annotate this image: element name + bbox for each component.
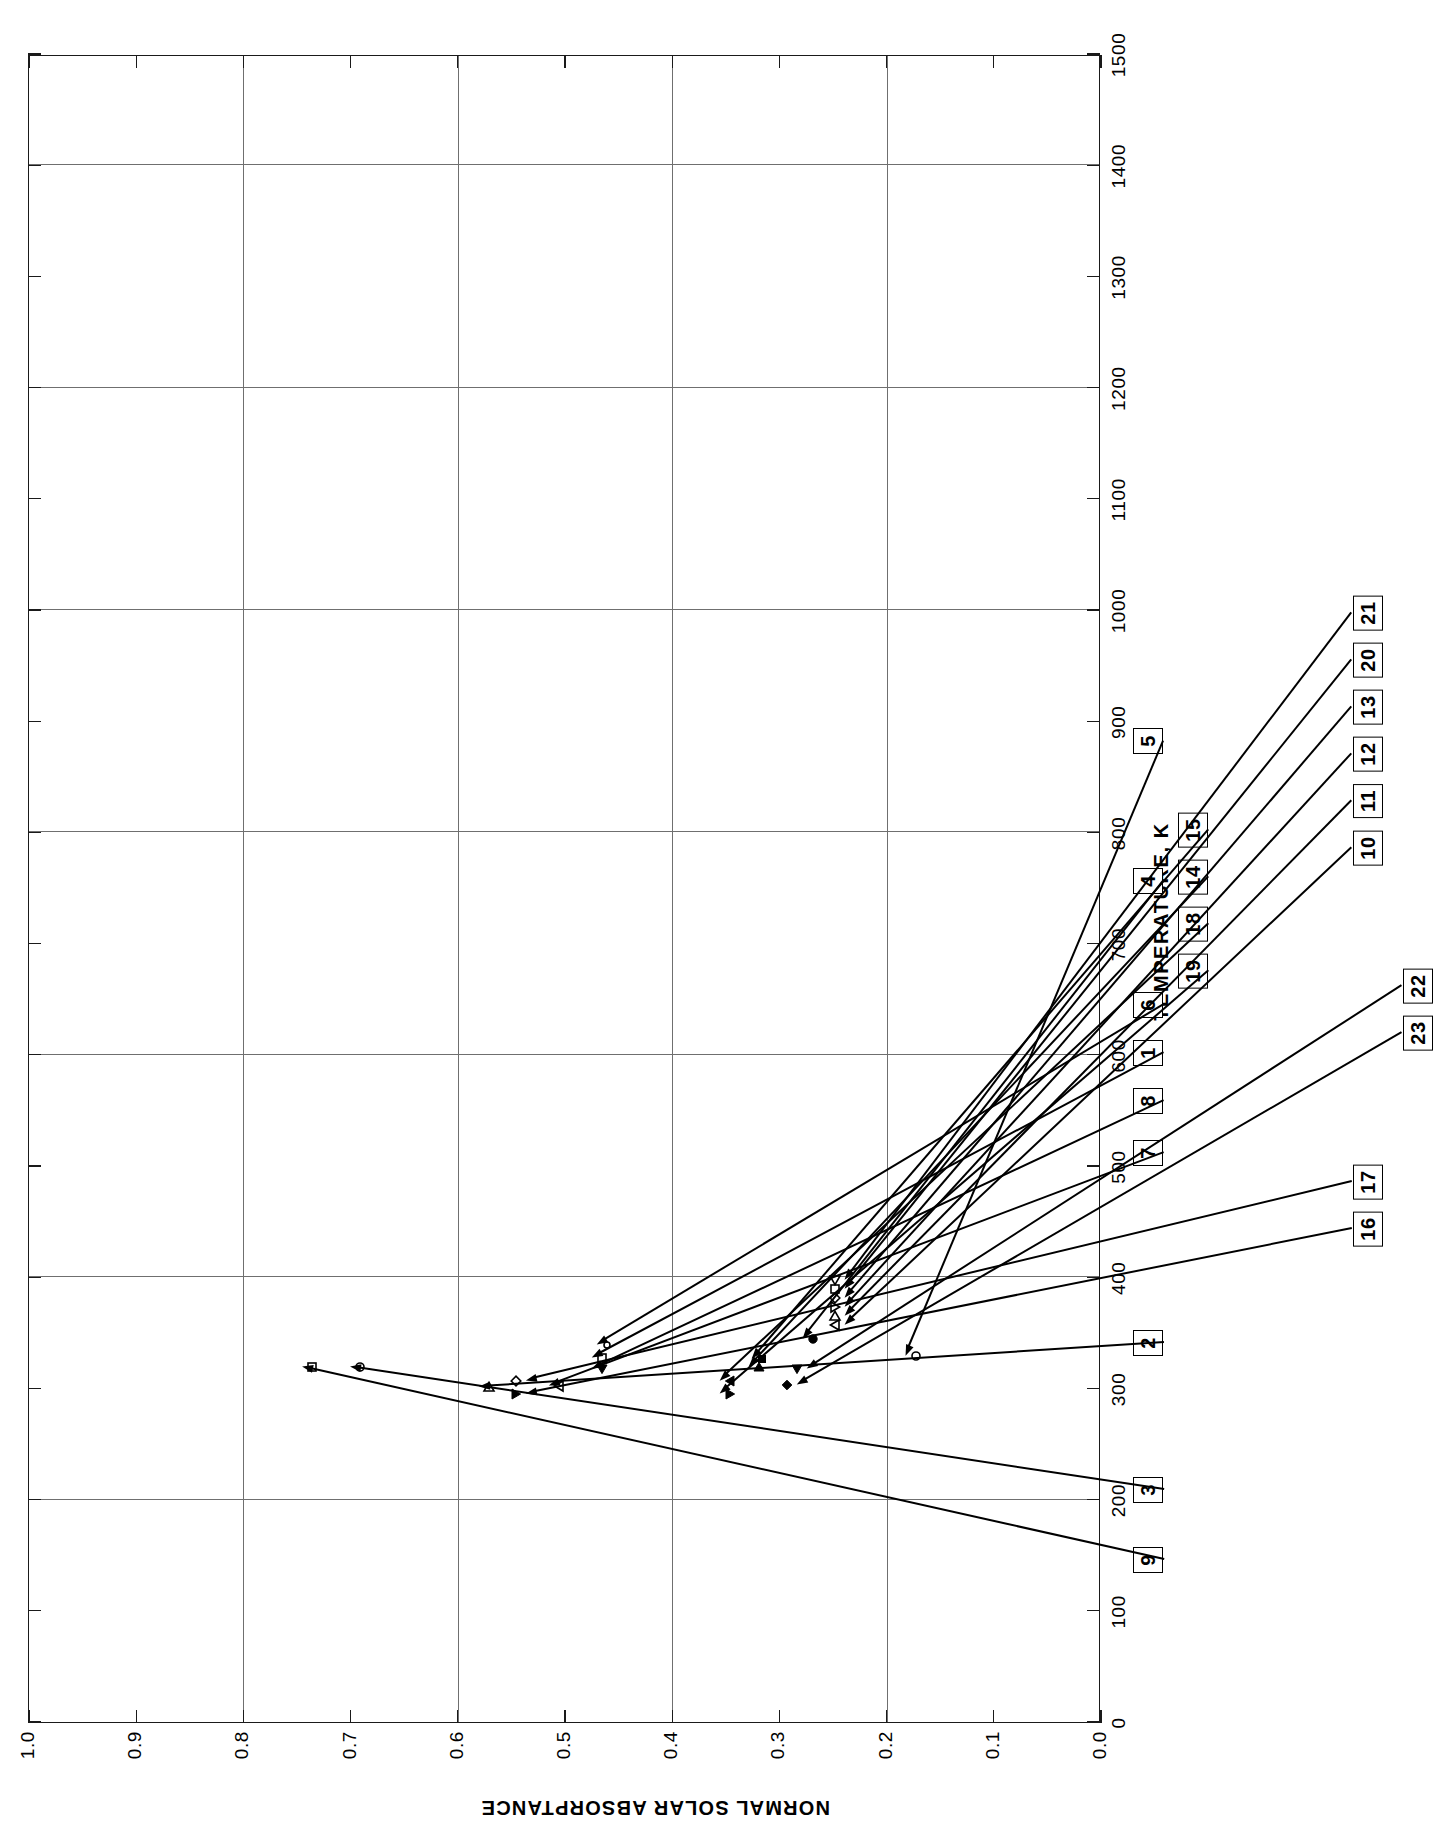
y-axis-tick	[350, 1710, 351, 1723]
x-axis-tick	[28, 1165, 41, 1166]
x-tick-label: 1500	[1108, 33, 1130, 78]
y-tick-label: 0.0	[1089, 1731, 1111, 1785]
gridline-horizontal	[672, 56, 673, 1722]
curve-callout-box: 10	[1353, 830, 1383, 865]
y-axis-tick	[564, 55, 565, 68]
x-tick-label: 1400	[1108, 144, 1130, 189]
x-axis-tick	[1087, 1165, 1100, 1166]
y-axis-tick	[993, 55, 994, 68]
curve-callout-box: 13	[1353, 689, 1383, 724]
y-axis-tick	[886, 55, 887, 68]
x-axis-tick	[28, 1721, 41, 1722]
gridline-vertical	[29, 164, 1099, 165]
y-tick-label: 0.7	[339, 1731, 361, 1785]
curve-callout-box: 23	[1403, 1015, 1433, 1050]
x-axis-tick	[28, 1277, 41, 1278]
callout-arrowhead	[350, 1363, 362, 1373]
x-tick-label: 900	[1108, 705, 1130, 739]
x-axis-tick	[28, 1499, 41, 1500]
gridline-horizontal	[243, 56, 244, 1722]
gridline-vertical	[29, 609, 1099, 610]
y-axis-tick	[886, 1710, 887, 1723]
x-tick-label: 1100	[1108, 478, 1130, 521]
x-tick-label: 300	[1108, 1373, 1130, 1407]
y-tick-label: 1.0	[17, 1731, 39, 1785]
x-axis-tick	[28, 609, 41, 610]
x-tick-label: 100	[1108, 1595, 1130, 1629]
x-axis-tick	[28, 721, 41, 722]
curve-callout-box: 20	[1353, 642, 1383, 677]
x-axis-tick	[1087, 53, 1100, 54]
x-axis-tick	[28, 498, 41, 499]
x-axis-tick	[1087, 1499, 1100, 1500]
curve-callout-box: 22	[1403, 968, 1433, 1003]
y-axis-tick	[993, 1710, 994, 1723]
x-tick-label: 400	[1108, 1261, 1130, 1295]
y-axis-tick	[136, 1710, 137, 1723]
x-axis-tick	[1087, 387, 1100, 388]
curve-callout-box: 9	[1133, 1547, 1163, 1573]
y-tick-label: 0.8	[231, 1731, 253, 1785]
y-axis-tick	[564, 1710, 565, 1723]
y-axis-tick	[28, 1710, 29, 1723]
gridline-vertical	[29, 831, 1099, 832]
y-tick-label: 0.2	[875, 1731, 897, 1785]
y-tick-label: 0.1	[982, 1731, 1004, 1785]
x-tick-label: 0	[1108, 1717, 1130, 1728]
y-axis-tick	[779, 1710, 780, 1723]
y-axis-tick	[779, 55, 780, 68]
x-axis-tick	[28, 53, 41, 54]
curve-callout-box: 3	[1133, 1477, 1163, 1503]
x-tick-label: 1300	[1108, 255, 1130, 300]
x-axis-tick	[28, 1388, 41, 1389]
gridline-vertical	[29, 1054, 1099, 1055]
x-axis-tick	[28, 1054, 41, 1055]
data-point-marker	[509, 1374, 523, 1388]
x-axis-tick	[1087, 832, 1100, 833]
plot-area	[28, 55, 1100, 1723]
data-point-marker	[780, 1378, 794, 1392]
curve-callout-box: 16	[1353, 1211, 1383, 1246]
x-axis-tick	[28, 943, 41, 944]
x-axis-tick	[28, 1610, 41, 1611]
y-axis-tick	[457, 1710, 458, 1723]
x-axis-tick	[1087, 1721, 1100, 1722]
curve-callout-box: 12	[1353, 736, 1383, 771]
gridline-vertical	[29, 1499, 1099, 1500]
y-axis-tick	[350, 55, 351, 68]
x-axis-tick	[28, 276, 41, 277]
x-axis-tick	[1087, 1610, 1100, 1611]
y-axis-tick	[1100, 55, 1101, 68]
y-axis-tick	[672, 55, 673, 68]
curve-callout-box: 17	[1353, 1164, 1383, 1199]
y-tick-label: 0.5	[553, 1731, 575, 1785]
y-tick-label: 0.6	[446, 1731, 468, 1785]
curve-callout-box: 21	[1353, 595, 1383, 630]
y-axis-tick	[136, 55, 137, 68]
y-tick-label: 0.4	[660, 1731, 682, 1785]
x-axis-tick	[1087, 721, 1100, 722]
y-tick-label: 0.9	[124, 1731, 146, 1785]
x-axis-tick	[28, 387, 41, 388]
x-axis-tick	[1087, 498, 1100, 499]
gridline-horizontal	[887, 56, 888, 1722]
y-axis-tick	[28, 55, 29, 68]
x-axis-tick	[1087, 276, 1100, 277]
x-tick-label: 200	[1108, 1484, 1130, 1518]
x-axis-tick	[1087, 609, 1100, 610]
y-axis-tick	[243, 55, 244, 68]
y-tick-label: 0.3	[767, 1731, 789, 1785]
callout-arrowhead	[479, 1382, 490, 1391]
gridline-horizontal	[458, 56, 459, 1722]
y-axis-tick	[243, 1710, 244, 1723]
y-axis-tick	[672, 1710, 673, 1723]
y-axis-tick	[1100, 1710, 1101, 1723]
y-axis-title: NORMAL SOLAR ABSORPTANCE	[480, 1796, 830, 1819]
x-axis-tick	[28, 165, 41, 166]
y-axis-tick	[457, 55, 458, 68]
gridline-vertical	[29, 387, 1099, 388]
x-tick-label: 1200	[1108, 366, 1130, 411]
x-axis-tick	[28, 832, 41, 833]
x-tick-label: 1000	[1108, 589, 1130, 634]
